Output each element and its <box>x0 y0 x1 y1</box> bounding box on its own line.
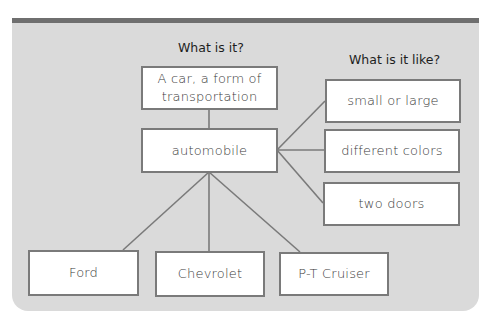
definition-line-2: transportation <box>162 88 258 106</box>
example-label: P-T Cruiser <box>298 265 370 283</box>
connector-property-1 <box>277 101 325 150</box>
property-box-2: different colors <box>324 129 460 173</box>
heading-what-is-it: What is it? <box>178 40 244 55</box>
connector-example-3 <box>209 172 300 252</box>
example-box-2: Chevrolet <box>155 251 265 297</box>
property-box-3: two doors <box>323 182 460 226</box>
center-box: automobile <box>141 128 278 173</box>
property-label: two doors <box>359 195 425 213</box>
center-label: automobile <box>172 142 247 160</box>
example-label: Chevrolet <box>178 265 243 283</box>
example-box-3: P-T Cruiser <box>279 252 389 296</box>
definition-box: A car, a form of transportation <box>141 66 278 110</box>
definition-line-1: A car, a form of <box>157 70 261 88</box>
connector-example-1 <box>123 172 209 250</box>
property-label: small or large <box>347 92 438 110</box>
connector-property-3 <box>277 150 323 203</box>
heading-what-is-it-like: What is it like? <box>349 52 440 67</box>
property-box-1: small or large <box>325 79 461 123</box>
example-label: Ford <box>69 264 98 282</box>
property-label: different colors <box>341 142 443 160</box>
example-box-1: Ford <box>28 250 139 296</box>
